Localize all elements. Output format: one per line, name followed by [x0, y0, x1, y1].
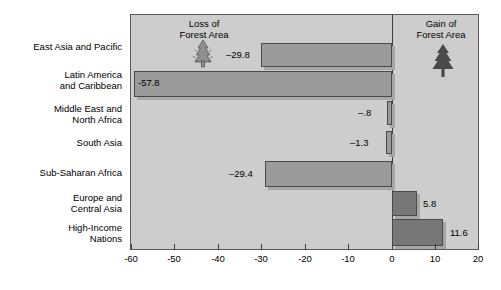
x-tick-label--60: -60 [124, 253, 138, 264]
x-tick-mark [435, 244, 436, 250]
x-tick-label-20: 20 [473, 253, 484, 264]
loss-panel-title: Loss of Forest Area [149, 18, 259, 40]
x-tick-label-0: 0 [389, 253, 394, 264]
category-label-europe-and-central-asia: Europe and Central Asia [0, 192, 122, 214]
x-tick-mark [348, 244, 349, 250]
bar-high-income-nations [392, 219, 443, 246]
bar-value-east-asia-and-pacific: –29.8 [226, 50, 250, 60]
gain-tree-icon [426, 43, 460, 83]
x-tick-label--40: -40 [211, 253, 225, 264]
x-tick-mark [478, 244, 479, 250]
x-tick-label--30: -30 [254, 253, 268, 264]
x-tick-label--10: -10 [341, 253, 355, 264]
bar-value-latin-america-and-caribbean: -57.8 [138, 78, 160, 88]
loss-tree-icon [188, 39, 218, 73]
x-axis: -60 -50 -40 -30 -20 -10 0 10 20 [130, 250, 479, 280]
bar-east-asia-and-pacific [261, 43, 392, 67]
plot-area: Loss of Forest Area Gain of Forest Area [130, 14, 479, 250]
x-tick-label--50: -50 [167, 253, 181, 264]
category-label-east-asia-and-pacific: East Asia and Pacific [0, 41, 122, 52]
bar-south-asia [386, 131, 392, 154]
bar-value-middle-east-and-north-africa: –.8 [358, 108, 371, 118]
bar-latin-america-and-caribbean [134, 71, 392, 97]
category-label-middle-east-and-north-africa: Middle East and North Africa [0, 103, 122, 125]
x-tick-mark [261, 244, 262, 250]
x-tick-mark [392, 244, 393, 250]
x-tick-label--20: -20 [298, 253, 312, 264]
category-axis-labels: East Asia and Pacific Latin America and … [0, 14, 122, 250]
forest-area-change-chart: East Asia and Pacific Latin America and … [0, 0, 501, 290]
bar-value-south-asia: –1.3 [350, 138, 369, 148]
bar-middle-east-and-north-africa [387, 101, 392, 125]
bar-value-sub-saharan-africa: –29.4 [229, 169, 253, 179]
category-label-high-income-nations: High-Income Nations [0, 222, 122, 244]
x-tick-mark [131, 244, 132, 250]
x-tick-mark [305, 244, 306, 250]
bar-europe-and-central-asia [392, 191, 417, 216]
bar-value-high-income-nations: 11.6 [450, 228, 468, 238]
gain-panel-title: Gain of Forest Area [403, 18, 479, 40]
category-label-sub-saharan-africa: Sub-Saharan Africa [0, 167, 122, 178]
bar-sub-saharan-africa [265, 161, 392, 187]
x-tick-mark [218, 244, 219, 250]
category-label-south-asia: South Asia [0, 137, 122, 148]
bar-value-europe-and-central-asia: 5.8 [423, 199, 436, 209]
x-tick-label-10: 10 [430, 253, 441, 264]
category-label-latin-america-and-caribbean: Latin America and Caribbean [0, 69, 122, 91]
x-tick-mark [174, 244, 175, 250]
